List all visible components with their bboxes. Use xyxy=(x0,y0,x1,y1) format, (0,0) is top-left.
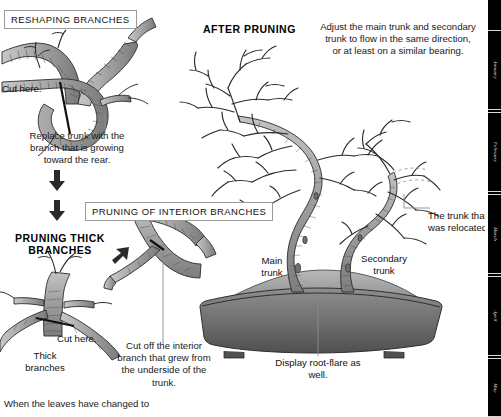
interior-caption-line-2: branch that grew from xyxy=(108,352,220,364)
reshaping-branches-title: RESHAPING BRANCHES xyxy=(4,10,137,29)
main-trunk-label-line-2: trunk xyxy=(250,267,294,279)
secondary-trunk-label: Secondary trunk xyxy=(355,253,413,277)
footer-text: When the leaves have changed to xyxy=(4,398,149,410)
root-flare-label-line-2: well. xyxy=(258,369,378,381)
interior-caption-line-4: trunk. xyxy=(108,377,220,389)
rail-tab-label: April xyxy=(492,310,497,321)
cut-mark-thick xyxy=(36,318,74,326)
rail-tab[interactable]: March xyxy=(488,194,501,274)
reshaping-caption-line-2: branch that is growing xyxy=(12,142,142,154)
main-trunk-label-line-1: Main xyxy=(250,255,294,267)
after-pruning-note: Adjust the main trunk and secondary trun… xyxy=(308,21,488,58)
reshaping-caption-line-1: Replace trunk with the xyxy=(12,130,142,142)
secondary-trunk-label-line-1: Secondary xyxy=(355,253,413,265)
arrow-down-icon xyxy=(48,200,66,222)
root-flare-label: Display root-flare as well. xyxy=(258,357,378,381)
interior-caption-line-3: the underside of the xyxy=(108,364,220,376)
reshaping-cut-here-label: Cut here. xyxy=(2,83,41,95)
rail-tab[interactable]: January xyxy=(488,30,501,110)
rail-tab-label: May xyxy=(492,383,497,392)
thick-heading-line-2: BRANCHES xyxy=(8,244,112,256)
rail-tab[interactable]: May xyxy=(488,358,501,417)
rail-tab-label: March xyxy=(492,227,497,241)
reshaping-caption: Replace trunk with the branch that is gr… xyxy=(12,130,142,167)
main-trunk-label: Main trunk xyxy=(250,255,294,279)
after-pruning-note-line-2: trunk to flow in the same direction, xyxy=(308,33,488,45)
thick-branches-label-line-2: branches xyxy=(10,362,80,374)
thick-branches-label: Thick branches xyxy=(10,350,80,374)
pruning-thick-branches-heading: PRUNING THICK BRANCHES xyxy=(8,232,112,256)
leader-lines xyxy=(105,113,430,356)
rail-tab-label: February xyxy=(492,142,497,162)
reshaping-caption-line-3: toward the rear. xyxy=(12,154,142,166)
rail-tab[interactable]: February xyxy=(488,112,501,192)
after-pruning-heading: AFTER PRUNING xyxy=(203,23,296,35)
pruning-interior-branches-title: PRUNING OF INTERIOR BRANCHES xyxy=(85,202,273,221)
secondary-trunk-label-line-2: trunk xyxy=(355,265,413,277)
cut-mark-interior xyxy=(150,240,164,250)
thick-branches-cut-here-label: Cut here. xyxy=(57,333,96,345)
thick-heading-line-1: PRUNING THICK xyxy=(8,232,112,244)
page-edge-rail: January February March April May xyxy=(488,0,501,415)
thick-branches-label-line-1: Thick xyxy=(10,350,80,362)
rail-tab[interactable]: April xyxy=(488,276,501,356)
arrow-down-icon xyxy=(48,170,66,192)
after-pruning-note-line-3: or at least on a similar bearing. xyxy=(308,45,488,57)
interior-caption-line-1: Cut off the interior xyxy=(108,340,220,352)
arrow-up-right-icon xyxy=(110,246,130,266)
rail-tab-label: January xyxy=(492,61,497,79)
interior-branches-caption: Cut off the interior branch that grew fr… xyxy=(108,340,220,389)
cut-mark xyxy=(60,82,70,134)
root-flare-label-line-1: Display root-flare as xyxy=(258,357,378,369)
after-pruning-note-line-1: Adjust the main trunk and secondary xyxy=(308,21,488,33)
